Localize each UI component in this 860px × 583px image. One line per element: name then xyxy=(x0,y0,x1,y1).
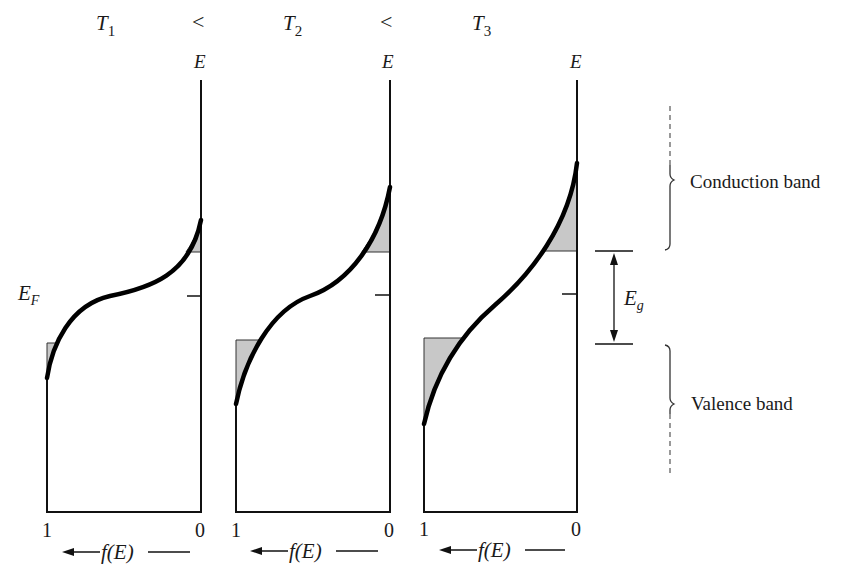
x-axis-label: f(E) xyxy=(289,539,322,563)
panel-t3: E 1 0 f(E) xyxy=(419,51,582,562)
x-left-label: 1 xyxy=(419,518,429,540)
up-arrow-icon xyxy=(610,253,618,265)
less-than-1: < xyxy=(192,9,204,34)
band-legend: Eg Conduction band Valence band xyxy=(595,106,821,475)
t3-label: T3 xyxy=(472,11,491,39)
panel-t1: E 1 0 f(E) xyxy=(42,51,206,564)
band-gap-label: Eg xyxy=(623,286,644,313)
x-left-label: 1 xyxy=(42,519,52,541)
energy-axis-label: E xyxy=(569,51,582,72)
fermi-dirac-curve xyxy=(424,163,577,424)
left-arrow-icon xyxy=(250,547,262,555)
fermi-dirac-curve xyxy=(236,187,390,404)
energy-axis-label: E xyxy=(193,51,206,72)
less-than-2: < xyxy=(380,9,392,34)
x-right-label: 0 xyxy=(384,519,394,541)
x-left-label: 1 xyxy=(231,519,241,541)
t2-label: T2 xyxy=(283,11,302,39)
x-axis-label: f(E) xyxy=(101,540,134,564)
conduction-brace xyxy=(665,165,674,250)
fermi-level-label: EF xyxy=(17,281,40,308)
plot-frame xyxy=(424,80,577,512)
x-right-label: 0 xyxy=(571,518,581,540)
x-right-label: 0 xyxy=(195,519,205,541)
energy-axis-label: E xyxy=(381,51,394,72)
down-arrow-icon xyxy=(610,330,618,342)
valence-brace xyxy=(665,345,674,414)
fermi-dirac-curve xyxy=(47,220,201,378)
conduction-band-label: Conduction band xyxy=(690,171,821,192)
valence-band-label: Valence band xyxy=(691,393,793,414)
panel-t2: E 1 0 f(E) xyxy=(231,51,394,563)
left-arrow-icon xyxy=(439,546,451,554)
x-axis-label: f(E) xyxy=(478,538,511,562)
temperature-title: T1 < T2 < T3 xyxy=(96,9,491,39)
t1-label: T1 xyxy=(96,11,115,39)
fermi-dirac-diagram: T1 < T2 < T3 EF E 1 0 f(E) E 1 0 xyxy=(0,0,860,583)
left-arrow-icon xyxy=(62,548,74,556)
plot-frame xyxy=(47,80,201,512)
